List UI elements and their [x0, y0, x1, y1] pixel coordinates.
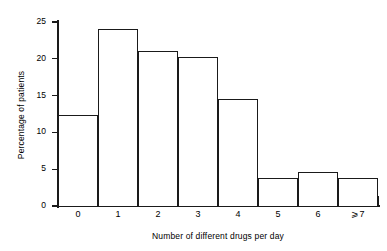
histogram-bar — [58, 115, 98, 206]
y-axis-title: Percentage of patients — [14, 0, 28, 230]
y-tick-label: 0 — [24, 201, 46, 210]
y-tick-mark — [52, 95, 58, 96]
histogram-bar — [98, 29, 138, 206]
y-tick-label: 15 — [24, 91, 46, 100]
histogram-figure: Percentage of patients Number of differe… — [0, 0, 387, 251]
histogram-bar — [218, 99, 258, 206]
x-tick-label: 6 — [298, 209, 338, 219]
x-tick-mark — [378, 196, 379, 206]
x-tick-label: 2 — [138, 209, 178, 219]
histogram-bar — [258, 178, 298, 206]
y-tick-mark — [52, 58, 58, 59]
histogram-bar — [138, 51, 178, 206]
x-tick-label: 5 — [258, 209, 298, 219]
x-tick-label: 0 — [58, 209, 98, 219]
y-tick-label: 5 — [24, 164, 46, 173]
histogram-bar — [298, 172, 338, 206]
histogram-bar — [338, 178, 378, 206]
y-tick-label: 25 — [24, 17, 46, 26]
y-tick-mark — [52, 21, 58, 22]
histogram-bar — [178, 57, 218, 206]
y-tick-label: 10 — [24, 127, 46, 136]
x-tick-label: 3 — [178, 209, 218, 219]
x-tick-label: 4 — [218, 209, 258, 219]
x-tick-label: ⩾7 — [338, 209, 378, 219]
x-tick-label: 1 — [98, 209, 138, 219]
y-tick-label: 20 — [24, 54, 46, 63]
x-axis-title: Number of different drugs per day — [58, 231, 378, 241]
